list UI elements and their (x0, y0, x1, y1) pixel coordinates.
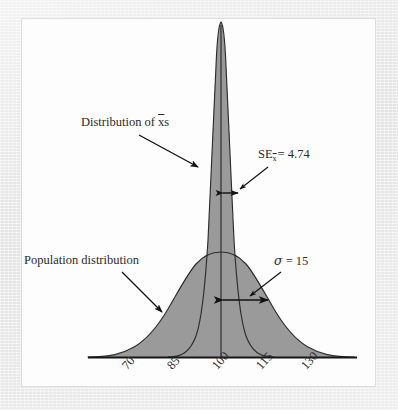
plot-svg (0, 0, 398, 410)
label-population-sigma: σ = 15 (274, 255, 308, 268)
se-subscript-xbar: x (273, 154, 277, 163)
figure-root: Distribution of xs Population distributi… (0, 0, 398, 410)
sigma-symbol: σ (274, 253, 283, 268)
label-population-distribution: Population distribution (24, 254, 139, 267)
leader-se (240, 167, 268, 189)
se-name: SE (258, 147, 273, 161)
label-distribution-prefix: Distribution of (81, 115, 158, 129)
label-standard-error: SEx= 4.74 (258, 148, 310, 163)
label-distribution-of-xbars: Distribution of xs (81, 116, 169, 129)
leader-distribution-xbars (139, 135, 198, 167)
label-distribution-suffix: s (164, 115, 169, 129)
sigma-equals: = 15 (286, 254, 309, 268)
leader-population-distribution (122, 272, 162, 312)
se-equals: = 4.74 (278, 147, 310, 161)
